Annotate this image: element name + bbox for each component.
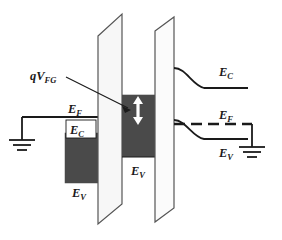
band-diagram-figure: qVFG EF EC EV EV EC EF EV <box>0 0 282 240</box>
control-oxide-barrier <box>155 17 174 222</box>
tunnel-oxide-barrier <box>98 14 122 224</box>
left-filled-valence-band <box>65 133 98 183</box>
